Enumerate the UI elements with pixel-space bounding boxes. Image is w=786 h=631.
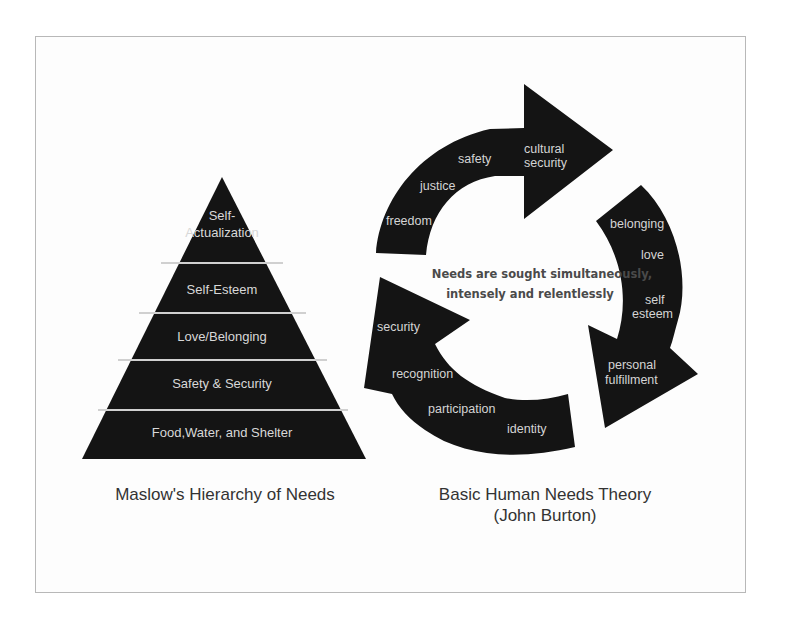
need-justice: justice xyxy=(419,179,455,193)
need-love: love xyxy=(641,248,664,262)
center-note-line1: Needs are sought simultaneously, xyxy=(432,267,652,281)
level-food-water-shelter: Food,Water, and Shelter xyxy=(152,425,293,440)
needs-diagram: Self- Actualization Self-Esteem Love/Bel… xyxy=(0,0,786,631)
need-participation: participation xyxy=(428,402,495,416)
need-self: self xyxy=(645,293,665,307)
need-belonging: belonging xyxy=(610,217,664,231)
level-safety-security: Safety & Security xyxy=(172,376,272,391)
level-self-actualization-line2: Actualization xyxy=(185,225,259,240)
burton-caption-line1: Basic Human Needs Theory xyxy=(410,484,680,505)
need-esteem: esteem xyxy=(632,307,673,321)
need-freedom: freedom xyxy=(386,214,432,228)
maslow-pyramid: Self- Actualization Self-Esteem Love/Bel… xyxy=(82,177,366,459)
burton-caption-line2: (John Burton) xyxy=(410,505,680,526)
maslow-caption: Maslow's Hierarchy of Needs xyxy=(80,484,370,505)
need-safety: safety xyxy=(458,152,492,166)
burton-cycle: freedom justice safety cultural security… xyxy=(364,84,698,455)
need-fulfillment: fulfillment xyxy=(605,373,658,387)
need-security: security xyxy=(377,320,421,334)
level-self-actualization-line1: Self- xyxy=(209,208,236,223)
top-arrow xyxy=(376,84,613,255)
level-self-esteem: Self-Esteem xyxy=(187,282,258,297)
level-love-belonging: Love/Belonging xyxy=(177,329,267,344)
burton-caption: Basic Human Needs Theory (John Burton) xyxy=(410,484,680,526)
center-note-line2: intensely and relentlessly xyxy=(446,287,614,301)
need-identity: identity xyxy=(507,422,547,436)
need-personal: personal xyxy=(608,358,656,372)
need-recognition: recognition xyxy=(392,367,453,381)
need-cultural: cultural xyxy=(524,142,564,156)
need-cultural-security: security xyxy=(524,156,568,170)
